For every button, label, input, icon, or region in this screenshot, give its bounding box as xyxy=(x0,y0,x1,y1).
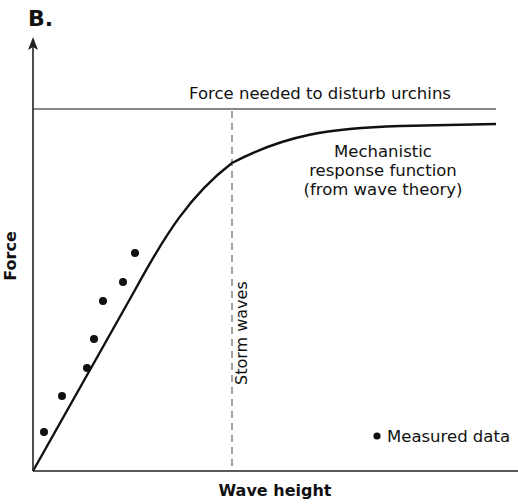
data-point xyxy=(58,392,66,400)
legend-marker-icon xyxy=(373,432,380,439)
curve-label-line1: Mechanistic xyxy=(334,142,432,161)
legend-label: Measured data xyxy=(387,427,510,446)
x-axis-label: Wave height xyxy=(219,481,332,500)
data-point xyxy=(131,249,139,257)
chart: B. Force needed to disturb urchins Storm… xyxy=(0,0,518,504)
curve-label-line3: (from wave theory) xyxy=(303,180,462,199)
curve-label-line2: response function xyxy=(309,161,457,180)
panel-label: B. xyxy=(28,6,53,31)
data-point xyxy=(99,297,107,305)
threshold-label: Force needed to disturb urchins xyxy=(189,84,451,103)
data-point xyxy=(83,364,91,372)
measured-data-points xyxy=(40,249,139,436)
data-point xyxy=(40,428,48,436)
data-point xyxy=(119,278,127,286)
storm-waves-label: Storm waves xyxy=(232,281,251,385)
data-point xyxy=(90,335,98,343)
y-axis-label: Force xyxy=(1,231,20,281)
